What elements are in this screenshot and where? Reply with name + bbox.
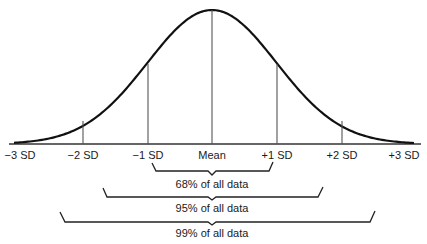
- axis-label-plus-2-sd: +2 SD: [327, 149, 358, 161]
- bracket-label-99: 99% of all data: [176, 227, 250, 239]
- sd-lines: [83, 10, 342, 144]
- axis-labels: −3 SD −2 SD −1 SD Mean +1 SD +2 SD +3 SD: [5, 149, 420, 161]
- axis-label-minus-2-sd: −2 SD: [68, 149, 99, 161]
- axis-label-plus-1-sd: +1 SD: [262, 149, 293, 161]
- axis-label-plus-3-sd: +3 SD: [389, 149, 420, 161]
- axis-label-minus-3-sd: −3 SD: [5, 149, 36, 161]
- bell-curve: [14, 10, 414, 143]
- normal-distribution-diagram: −3 SD −2 SD −1 SD Mean +1 SD +2 SD +3 SD…: [0, 0, 427, 244]
- bracket-label-68: 68% of all data: [176, 178, 250, 190]
- axis-label-mean: Mean: [198, 149, 226, 161]
- bracket-68: [152, 162, 273, 175]
- axis-label-minus-1-sd: −1 SD: [133, 149, 164, 161]
- bracket-label-95: 95% of all data: [176, 202, 250, 214]
